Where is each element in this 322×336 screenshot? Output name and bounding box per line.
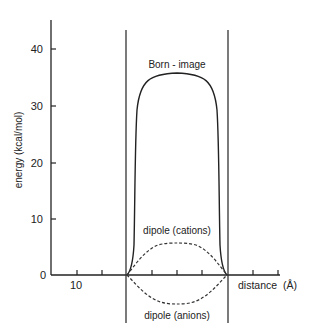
y-tick-label-20: 20 <box>31 157 43 169</box>
y-ticks <box>51 49 56 219</box>
y-tick-label-40: 40 <box>31 43 43 55</box>
born-image-label: Born - image <box>148 59 206 70</box>
x-axis-label: distance (Å) <box>238 279 297 291</box>
y-axis-label: energy (kcal/mol) <box>13 112 24 189</box>
dipole-anions-curve <box>127 275 227 304</box>
born-image-curve <box>127 73 227 275</box>
y-tick-label-10: 10 <box>31 213 43 225</box>
dipole-cations-label: dipole (cations) <box>143 225 211 236</box>
x-tick-label-10: 10 <box>70 279 82 291</box>
x-ticks <box>77 270 278 275</box>
y-tick-label-30: 30 <box>31 100 43 112</box>
energy-profile-chart: 40 30 20 10 0 10 energy (kcal/mol) dista… <box>0 0 322 336</box>
dipole-anions-label: dipole (anions) <box>144 310 210 321</box>
y-tick-label-0: 0 <box>40 269 46 281</box>
